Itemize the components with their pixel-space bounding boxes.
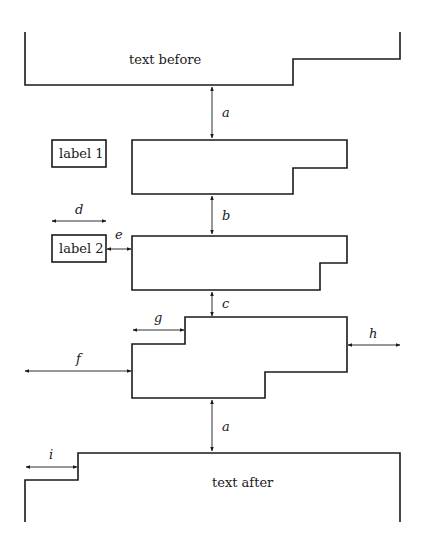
dimension-a-bottom: a [212, 400, 230, 451]
dimension-a-top-label: a [222, 105, 230, 120]
text-after-label: text after [212, 475, 274, 490]
dimension-a-bottom-label: a [222, 419, 230, 434]
dimension-f: f [25, 351, 131, 371]
text-before-outline [25, 32, 400, 85]
dimension-i-label: i [49, 447, 53, 462]
text-after-block: text after [25, 453, 400, 522]
dimension-c: c [212, 292, 230, 316]
paragraph-box-3 [132, 317, 347, 398]
dimension-d-label: d [75, 202, 83, 217]
label-1-box: label 1 [52, 140, 106, 167]
dimension-i: i [26, 447, 77, 467]
text-before-block: text before [25, 32, 400, 85]
text-before-label: text before [129, 52, 201, 67]
label-2-text: label 2 [59, 241, 103, 256]
dimension-c-label: c [222, 296, 230, 311]
layout-diagram: text before a label 1 b d label 2 e c [0, 0, 424, 552]
paragraph-box-2 [132, 236, 347, 290]
dimension-e: e [107, 227, 131, 249]
dimension-b: b [212, 196, 230, 234]
label-1-text: label 1 [59, 146, 103, 161]
dimension-h: h [348, 326, 400, 345]
dimension-g: g [133, 310, 184, 330]
dimension-d: d [52, 202, 106, 221]
label-2-box: label 2 [52, 235, 106, 262]
paragraph-box-1 [132, 140, 347, 194]
dimension-h-label: h [369, 326, 377, 341]
dimension-a-top: a [212, 87, 230, 138]
dimension-f-label: f [75, 351, 83, 366]
dimension-e-label: e [115, 227, 123, 242]
dimension-g-label: g [154, 310, 162, 325]
dimension-b-label: b [222, 208, 230, 223]
